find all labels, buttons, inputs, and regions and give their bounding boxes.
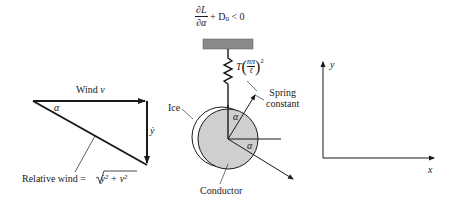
ice-leader: [182, 109, 193, 119]
wind-label: Wind v: [76, 85, 105, 95]
alpha-upper-label: α: [233, 112, 238, 122]
relative-wind-line: [33, 101, 147, 165]
spring-leader: [247, 81, 257, 91]
partial-alpha: ∂α: [195, 17, 208, 28]
spring-stiffness-label: T(nπℓ)2: [236, 58, 264, 75]
support-bar: [203, 39, 253, 49]
relative-wind-label: Relative wind = ẏ² + v²: [22, 174, 127, 184]
alpha-lower-label: α: [247, 141, 252, 151]
conductor-label: Conductor: [200, 186, 242, 196]
relative-wind-leader: [75, 136, 95, 172]
condition-plus-D: + D: [210, 11, 225, 22]
stability-condition: ∂L ∂α + D0 < 0: [195, 5, 245, 28]
relative-wind-expression: ẏ² + v²: [100, 173, 127, 184]
ydot-label: ẏ: [150, 126, 154, 136]
partial-L: ∂L: [195, 5, 208, 17]
ice-label: Ice: [168, 103, 180, 113]
alpha-angle-label: α: [54, 103, 59, 113]
spring-constant-label: Spring constant: [266, 88, 299, 109]
x-axis-label: x: [428, 165, 432, 175]
xy-axes: [323, 62, 434, 158]
y-axis-label: y: [330, 60, 334, 70]
wind-triangle: [33, 101, 147, 183]
spring-constant-leader: [255, 95, 264, 100]
